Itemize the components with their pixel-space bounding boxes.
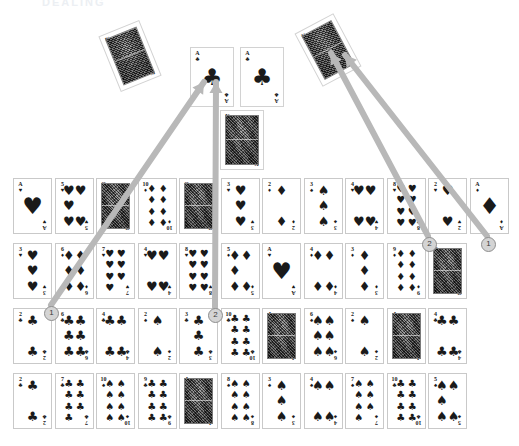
card-8-of-hearts[interactable]: 8♥8♥♥♥♥♥♥♥♥♥ — [387, 178, 426, 234]
court-card-illustration-hearts — [225, 115, 259, 165]
card-q-of-spades[interactable]: Q♠Q♠ — [179, 178, 218, 234]
step-marker-2-1[interactable]: 2 — [208, 308, 223, 323]
loose-king-of-diamonds-top-right[interactable]: K♦K♦ — [294, 13, 361, 87]
court-card-illustration-diamonds — [433, 248, 462, 294]
loose-ace-of-clubs-right[interactable]: A♣A♣♣ — [240, 47, 284, 107]
card-pips: ♦♦♦♦♦ — [229, 248, 252, 294]
step-marker-1-0[interactable]: 1 — [44, 306, 59, 321]
card-a-of-hearts[interactable]: A♥A♥♥ — [262, 243, 301, 299]
card-pips: ♥♥ — [436, 183, 459, 229]
court-card-illustration-diamonds — [101, 183, 130, 229]
court-card-illustration-spades — [392, 313, 421, 359]
card-pips: ♣♣♣♣ — [436, 313, 459, 359]
card-pips: ♣♣♣♣♣♣♣♣ — [229, 313, 252, 359]
card-2-of-spades[interactable]: 2♠2♠♠♠ — [138, 308, 177, 364]
card-pips: ♣♣♣♣♣♣♣♣ — [395, 378, 418, 424]
card-10-of-clubs[interactable]: 10♣10♣♣♣♣♣♣♣♣♣ — [221, 308, 260, 364]
card-pips: ♠♠♠♠♠ — [436, 378, 459, 424]
card-10-of-spades[interactable]: 10♠10♠♠♠♠♠♠♠♠♠ — [96, 373, 135, 429]
card-pips: ♥ — [21, 183, 44, 229]
card-pips: ♦♦♦♦♦♦♦♦ — [146, 183, 169, 229]
card-pips: ♠♠♠♠♠♠♠♠ — [229, 378, 252, 424]
card-pips: ♦ — [478, 183, 501, 229]
card-8-of-hearts[interactable]: 8♥8♥♥♥♥♥♥♥♥♥ — [179, 243, 218, 299]
card-10-of-diamonds[interactable]: 10♦10♦♦♦♦♦♦♦♦♦ — [138, 178, 177, 234]
card-6-of-clubs[interactable]: 6♣6♣♣♣♣♣♣♣ — [55, 308, 94, 364]
card-pips: ♦♦♦♦♦♦ — [63, 248, 86, 294]
card-pips: ♥♥♥♥♥♥♥ — [104, 248, 127, 294]
card-5-of-spades[interactable]: 5♠5♠♠♠♠♠♠ — [428, 373, 467, 429]
card-pips: ♣♣♣♣ — [104, 313, 127, 359]
card-3-of-spades[interactable]: 3♠3♠♠♠♠ — [304, 178, 343, 234]
card-5-of-hearts[interactable]: 5♥5♥♥♥♥♥♥ — [55, 178, 94, 234]
card-3-of-hearts[interactable]: 3♥3♥♥♥♥ — [13, 243, 52, 299]
court-card-illustration-clubs — [184, 378, 213, 424]
card-j-of-clubs[interactable]: J♣J♣ — [179, 373, 218, 429]
card-pips: ♣♣♣♣♣♣♣ — [63, 378, 86, 424]
card-2-of-diamonds[interactable]: 2♦2♦♦♦ — [262, 178, 301, 234]
court-card-illustration-spades — [267, 313, 296, 359]
court-card-illustration-diamonds — [301, 20, 354, 80]
card-7-of-spades[interactable]: 7♠7♠♠♠♠♠♠♠♠ — [345, 373, 384, 429]
card-pips: ♠♠♠ — [270, 378, 293, 424]
card-pips: ♥♥♥♥♥ — [63, 183, 86, 229]
card-pips: ♠♠ — [146, 313, 169, 359]
card-pips: ♥♥♥♥ — [353, 183, 376, 229]
card-pips: ♣♣♣ — [187, 313, 210, 359]
card-pips: ♠♠♠♠ — [312, 378, 335, 424]
card-j-of-spades[interactable]: J♠J♠ — [262, 308, 301, 364]
header-ghost-text: DEALING — [42, 0, 106, 8]
court-card-illustration-spades — [184, 183, 213, 229]
card-pips: ♣♣ — [21, 378, 44, 424]
card-9-of-diamonds[interactable]: 9♦9♦♦♦♦♦♦♦♦♦ — [387, 243, 426, 299]
card-q-of-diamonds[interactable]: Q♦Q♦ — [96, 178, 135, 234]
card-10-of-clubs[interactable]: 10♣10♣♣♣♣♣♣♣♣♣ — [387, 373, 426, 429]
card-5-of-diamonds[interactable]: 5♦5♦♦♦♦♦♦ — [221, 243, 260, 299]
card-4-of-diamonds[interactable]: 4♦4♦♦♦♦♦ — [304, 243, 343, 299]
card-4-of-hearts[interactable]: 4♥4♥♥♥♥♥ — [138, 243, 177, 299]
card-pips: ♥♥♥ — [229, 183, 252, 229]
loose-king-of-hearts[interactable]: K♥K♥ — [220, 110, 264, 170]
card-pips: ♣ — [198, 52, 226, 102]
card-9-of-clubs[interactable]: 9♣9♣♣♣♣♣♣♣♣♣ — [138, 373, 177, 429]
card-4-of-spades[interactable]: 4♠4♠♠♠♠♠ — [304, 373, 343, 429]
card-pips: ♥♥♥♥♥♥♥♥ — [395, 183, 418, 229]
card-pips: ♥ — [270, 248, 293, 294]
card-2-of-hearts[interactable]: 2♥2♥♥♥ — [428, 178, 467, 234]
card-6-of-spades[interactable]: 6♠6♠♠♠♠♠♠♠ — [304, 308, 343, 364]
card-pips: ♦♦♦ — [353, 248, 376, 294]
step-marker-1-3[interactable]: 1 — [481, 237, 496, 252]
step-marker-2-2[interactable]: 2 — [422, 237, 437, 252]
card-pips: ♠♠♠♠♠♠♠♠ — [104, 378, 127, 424]
loose-ace-of-clubs-left[interactable]: A♣A♣♣ — [190, 47, 234, 107]
card-layout-canvas: DEALING A♥A♥♥5♥5♥♥♥♥♥♥Q♦Q♦10♦10♦♦♦♦♦♦♦♦♦… — [0, 0, 519, 446]
card-a-of-diamonds[interactable]: A♦A♦♦ — [470, 178, 509, 234]
card-pips: ♦♦ — [270, 183, 293, 229]
card-7-of-hearts[interactable]: 7♥7♥♥♥♥♥♥♥♥ — [96, 243, 135, 299]
card-pips: ♠♠♠♠♠♠♠ — [353, 378, 376, 424]
court-card-illustration-diamonds — [105, 26, 155, 85]
card-j-of-spades[interactable]: J♠J♠ — [387, 308, 426, 364]
loose-king-of-diamonds-rotated[interactable]: K♦K♦ — [98, 20, 161, 92]
card-3-of-diamonds[interactable]: 3♦3♦♦♦♦ — [345, 243, 384, 299]
card-pips: ♠♠ — [353, 313, 376, 359]
card-pips: ♥♥♥♥ — [146, 248, 169, 294]
card-pips: ♠♠♠♠♠♠ — [312, 313, 335, 359]
card-2-of-clubs[interactable]: 2♣2♣♣♣ — [13, 373, 52, 429]
card-4-of-hearts[interactable]: 4♥4♥♥♥♥♥ — [345, 178, 384, 234]
card-6-of-diamonds[interactable]: 6♦6♦♦♦♦♦♦♦ — [55, 243, 94, 299]
card-pips: ♦♦♦♦ — [312, 248, 335, 294]
card-8-of-spades[interactable]: 8♠8♠♠♠♠♠♠♠♠♠ — [221, 373, 260, 429]
card-2-of-spades[interactable]: 2♠2♠♠♠ — [345, 308, 384, 364]
card-4-of-clubs[interactable]: 4♣4♣♣♣♣♣ — [96, 308, 135, 364]
card-3-of-hearts[interactable]: 3♥3♥♥♥♥ — [221, 178, 260, 234]
card-q-of-diamonds[interactable]: Q♦Q♦ — [428, 243, 467, 299]
card-pips: ♣♣♣♣♣♣ — [63, 313, 86, 359]
card-a-of-hearts[interactable]: A♥A♥♥ — [13, 178, 52, 234]
card-7-of-clubs[interactable]: 7♣7♣♣♣♣♣♣♣♣ — [55, 373, 94, 429]
card-pips: ♣ — [248, 52, 276, 102]
card-3-of-spades[interactable]: 3♠3♠♠♠♠ — [262, 373, 301, 429]
card-4-of-clubs[interactable]: 4♣4♣♣♣♣♣ — [428, 308, 467, 364]
card-pips: ♣♣ — [21, 313, 44, 359]
card-pips: ♣♣♣♣♣♣♣♣ — [146, 378, 169, 424]
